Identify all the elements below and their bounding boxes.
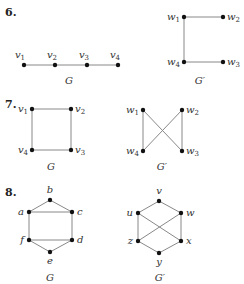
vertex-label-x: x (186, 235, 192, 246)
vertex-z (136, 239, 140, 243)
edge-f-e (29, 240, 50, 252)
problem-number: 7. (5, 98, 16, 111)
vertex-label-w: w (186, 207, 195, 218)
vertex-label-v1: v1 (18, 103, 28, 116)
vertex-w4 (182, 60, 186, 64)
problem-number: 8. (5, 186, 16, 199)
vertex-v4 (116, 63, 120, 67)
vertex-label-w2: w2 (227, 11, 240, 24)
edge-a-b (29, 200, 50, 212)
vertex-v (157, 199, 161, 203)
vertex-label-v3: v3 (75, 144, 85, 157)
problem-7: 7.v1v2v4v3Gw1w2w4w3G′ (5, 98, 199, 172)
graph-g-prime: vuwzxyG′ (127, 185, 195, 283)
vertex-label-w1: w1 (167, 11, 180, 24)
vertex-v3 (85, 63, 89, 67)
vertex-w2 (221, 15, 225, 19)
vertex-v1 (22, 63, 26, 67)
vertex-w2 (180, 108, 184, 112)
vertex-label-w2: w2 (186, 104, 199, 117)
vertex-label-v4: v4 (18, 144, 29, 157)
graph-isomorphism-exercises: 6.v1v2v3v4Gw1w2w4w3G′7.v1v2v4v3Gw1w2w4w3… (0, 0, 244, 284)
graph-g: bacfdeG (18, 184, 83, 283)
graph-g-prime: w1w2w4w3G′ (167, 11, 240, 86)
vertex-label-e: e (47, 255, 53, 266)
vertex-v1 (30, 107, 34, 111)
vertex-label-w3: w3 (186, 145, 199, 158)
vertex-a (27, 210, 31, 214)
edge-y-x (159, 241, 181, 253)
vertex-label-v1: v1 (15, 49, 25, 62)
vertex-label-v4: v4 (110, 49, 121, 62)
edge-e-d (50, 240, 72, 252)
vertex-w1 (182, 15, 186, 19)
vertex-label-a: a (18, 206, 24, 217)
vertex-label-w4: w4 (167, 56, 181, 69)
vertex-y (157, 251, 161, 255)
vertex-w3 (221, 60, 225, 64)
vertex-label-f: f (19, 234, 26, 245)
vertex-w3 (180, 149, 184, 153)
vertex-b (48, 198, 52, 202)
vertex-label-b: b (47, 184, 53, 195)
vertex-label-u: u (127, 207, 133, 218)
graph-caption: G (46, 272, 54, 283)
vertex-v2 (53, 63, 57, 67)
vertex-x (179, 239, 183, 243)
problem-8: 8.bacfdeGvuwzxyG′ (5, 184, 195, 283)
vertex-w1 (141, 108, 145, 112)
vertex-label-v: v (156, 185, 162, 196)
vertex-label-v3: v3 (79, 49, 89, 62)
edge-b-c (50, 200, 72, 212)
vertex-w (179, 211, 183, 215)
graph-caption: G′ (157, 161, 168, 172)
vertex-v4 (30, 148, 34, 152)
graph-g-prime: w1w2w4w3G′ (126, 104, 199, 172)
vertex-v2 (69, 107, 73, 111)
vertex-label-w4: w4 (126, 145, 140, 158)
edge-z-y (138, 241, 159, 253)
vertex-label-d: d (77, 234, 83, 245)
vertex-label-w3: w3 (227, 56, 240, 69)
vertex-c (70, 210, 74, 214)
vertex-label-c: c (77, 206, 83, 217)
edge-v-w (159, 201, 181, 213)
vertex-label-w1: w1 (126, 104, 139, 117)
vertex-d (70, 238, 74, 242)
graph-g: v1v2v4v3G (18, 103, 85, 172)
vertex-label-y: y (155, 256, 162, 267)
edge-u-v (138, 201, 159, 213)
vertex-label-z: z (127, 235, 134, 246)
vertex-label-v2: v2 (47, 49, 57, 62)
vertex-u (136, 211, 140, 215)
vertex-label-v2: v2 (75, 103, 85, 116)
graph-caption: G′ (155, 272, 166, 283)
vertex-f (27, 238, 31, 242)
graph-caption: G′ (195, 75, 206, 86)
vertex-w4 (141, 149, 145, 153)
vertex-e (48, 250, 52, 254)
problem-number: 6. (5, 6, 16, 19)
graph-caption: G (47, 161, 55, 172)
problem-6: 6.v1v2v3v4Gw1w2w4w3G′ (5, 6, 240, 86)
graph-g: v1v2v3v4G (15, 49, 121, 86)
vertex-v3 (69, 148, 73, 152)
graph-caption: G (65, 75, 73, 86)
